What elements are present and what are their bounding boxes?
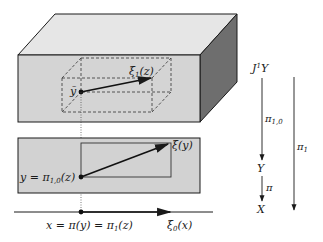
- projection-chain: J1Y π1,0 Y π X π1: [250, 62, 308, 216]
- pi10-label: π1,0: [264, 113, 283, 126]
- xi-y-label: ξ(y): [172, 139, 193, 152]
- j1y-label: J1Y: [250, 62, 270, 75]
- x-space-label: X: [256, 203, 266, 216]
- y-point: [79, 175, 84, 180]
- x-point: [79, 210, 84, 215]
- pi-label: π: [265, 182, 273, 193]
- jet-space-box: [18, 14, 237, 122]
- x-equation-label: x = π(y) = π1(z): [46, 219, 133, 233]
- xi1-label: ξ1(z): [129, 65, 154, 79]
- y-equation-label: y = π1,0(z): [19, 171, 75, 185]
- xi0-label: ξ0(x): [167, 219, 192, 233]
- pi1-label: π1: [296, 141, 308, 154]
- y-space-label: Y: [257, 162, 266, 175]
- ytilde-label: ỹ: [69, 85, 77, 98]
- box-top-face: [18, 14, 237, 55]
- jet-bundle-diagram: ỹ ξ1(z) ξ(y) y = π1,0(z) x = π(y) = π1(z…: [0, 0, 323, 242]
